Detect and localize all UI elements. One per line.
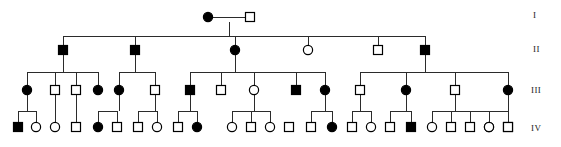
individual-male-unaffected[interactable] — [307, 123, 316, 132]
individual-male-unaffected[interactable] — [348, 123, 357, 132]
individual-female-unaffected[interactable] — [366, 122, 375, 131]
individual-male-unaffected[interactable] — [72, 86, 81, 95]
individual-female-affected[interactable] — [230, 45, 239, 54]
individual-male-unaffected[interactable] — [374, 46, 383, 55]
individual-male-unaffected[interactable] — [51, 86, 60, 95]
individual-female-affected[interactable] — [93, 122, 102, 131]
individual-male-affected[interactable] — [407, 123, 416, 132]
individual-female-affected[interactable] — [320, 85, 329, 94]
pedigree-chart: IIIIIIIV — [0, 0, 561, 147]
individual-female-unaffected[interactable] — [50, 122, 59, 131]
individual-male-affected[interactable] — [131, 46, 140, 55]
individual-male-unaffected[interactable] — [217, 86, 226, 95]
individual-male-unaffected[interactable] — [247, 123, 256, 132]
generation-label-IV: IV — [531, 123, 541, 133]
individual-male-unaffected[interactable] — [466, 123, 475, 132]
individual-male-unaffected[interactable] — [447, 123, 456, 132]
individual-male-unaffected[interactable] — [451, 86, 460, 95]
individual-female-affected[interactable] — [22, 85, 31, 94]
individual-male-unaffected[interactable] — [246, 13, 255, 22]
individual-female-affected[interactable] — [203, 12, 212, 21]
individual-female-unaffected[interactable] — [249, 85, 258, 94]
individual-female-affected[interactable] — [503, 85, 512, 94]
individual-male-affected[interactable] — [292, 86, 301, 95]
individual-female-affected[interactable] — [401, 85, 410, 94]
individual-male-unaffected[interactable] — [504, 123, 513, 132]
individual-male-unaffected[interactable] — [285, 123, 294, 132]
individual-male-unaffected[interactable] — [356, 86, 365, 95]
generation-labels-layer: IIIIIIIV — [531, 10, 541, 133]
individual-female-unaffected[interactable] — [265, 122, 274, 131]
individual-male-affected[interactable] — [14, 123, 23, 132]
individual-female-unaffected[interactable] — [427, 122, 436, 131]
individual-female-affected[interactable] — [192, 122, 201, 131]
individual-male-unaffected[interactable] — [174, 123, 183, 132]
individual-female-unaffected[interactable] — [303, 45, 312, 54]
generation-label-I: I — [533, 10, 536, 20]
individual-female-unaffected[interactable] — [152, 122, 161, 131]
individual-female-affected[interactable] — [114, 85, 123, 94]
pedigree-canvas: IIIIIIIV — [0, 0, 561, 147]
individual-female-unaffected[interactable] — [31, 122, 40, 131]
generation-label-III: III — [531, 85, 541, 95]
connector-lines-layer — [18, 17, 508, 122]
individual-male-unaffected[interactable] — [134, 123, 143, 132]
individual-male-affected[interactable] — [421, 46, 430, 55]
generation-label-II: II — [533, 44, 540, 54]
individual-male-unaffected[interactable] — [113, 123, 122, 132]
individual-male-unaffected[interactable] — [72, 123, 81, 132]
individual-female-affected[interactable] — [93, 85, 102, 94]
individual-male-affected[interactable] — [186, 86, 195, 95]
individual-male-affected[interactable] — [59, 46, 68, 55]
individual-female-affected[interactable] — [327, 122, 336, 131]
individual-female-unaffected[interactable] — [227, 122, 236, 131]
individual-male-unaffected[interactable] — [151, 86, 160, 95]
individual-male-unaffected[interactable] — [386, 123, 395, 132]
individual-female-unaffected[interactable] — [484, 122, 493, 131]
